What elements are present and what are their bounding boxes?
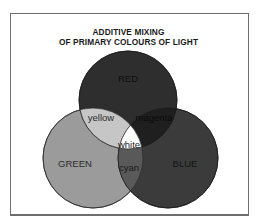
venn-diagram: RED GREEN BLUE yellow magenta white cyan	[0, 0, 257, 224]
label-magenta: magenta	[136, 112, 174, 123]
label-yellow: yellow	[88, 112, 115, 123]
label-blue: BLUE	[173, 158, 198, 169]
label-white: white	[117, 139, 140, 150]
label-red: RED	[118, 73, 138, 84]
label-green: GREEN	[58, 158, 92, 169]
label-cyan: cyan	[119, 162, 139, 173]
